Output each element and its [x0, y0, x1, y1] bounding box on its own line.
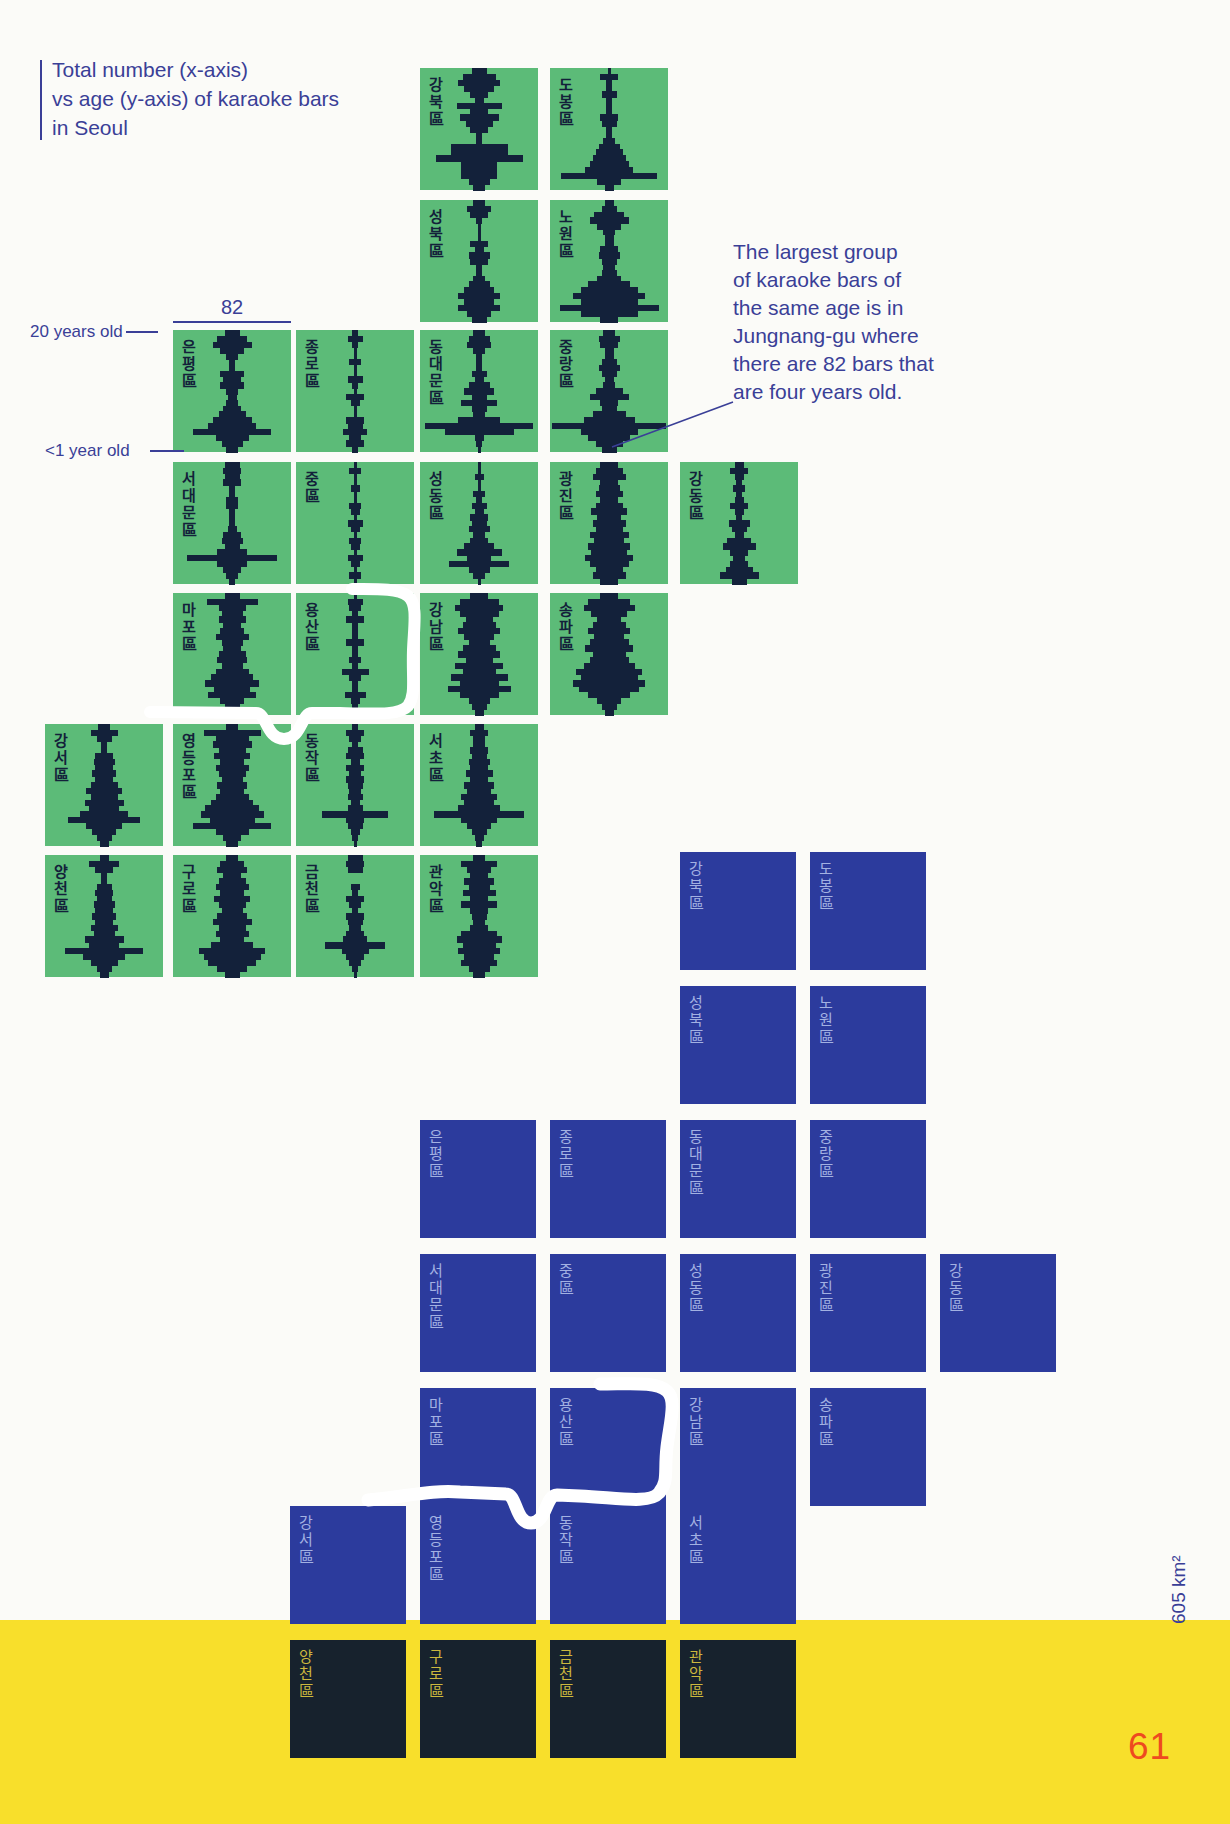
district-label-geumcheon: 금 천 區 — [305, 863, 320, 914]
map-tile-songpa: 송 파 區 — [810, 1388, 926, 1506]
district-label-geumcheon: 금 천 區 — [559, 1648, 574, 1699]
district-label-gwanak: 관 악 區 — [429, 863, 444, 914]
district-label-gangnam: 강 남 區 — [429, 601, 444, 652]
map-tile-eunpyeong: 은 평 區 — [420, 1120, 536, 1238]
map-tile-geumcheon: 금 천 區 — [550, 1640, 666, 1758]
district-label-songpa: 송 파 區 — [819, 1396, 834, 1447]
histogram-tile-yongsan: 용 산 區 — [296, 593, 414, 715]
callout-line: The largest group — [733, 238, 934, 266]
district-label-gwangjin: 광 진 區 — [819, 1262, 834, 1313]
map-tile-nowon: 노 원 區 — [810, 986, 926, 1104]
district-label-dongdaemun: 동 대 문 區 — [429, 338, 444, 406]
district-label-yongsan: 용 산 區 — [305, 601, 320, 652]
axis-label-20-years: 20 years old — [30, 322, 123, 342]
district-label-nowon: 노 원 區 — [559, 208, 574, 259]
district-label-dongjak: 동 작 區 — [305, 732, 320, 783]
district-label-jongno: 종 로 區 — [305, 338, 320, 389]
callout-line: there are 82 bars that — [733, 350, 934, 378]
map-tile-gwangjin: 광 진 區 — [810, 1254, 926, 1372]
histogram-tile-dobong: 도 봉 區 — [550, 68, 668, 190]
histogram-tile-jungnang: 중 랑 區 — [550, 330, 668, 452]
histogram-tile-geumcheon: 금 천 區 — [296, 855, 414, 977]
district-label-seongdong: 성 동 區 — [689, 1262, 704, 1313]
district-label-dongjak: 동 작 區 — [559, 1514, 574, 1565]
map-tile-mapo: 마 포 區 — [420, 1388, 536, 1506]
histogram-tile-seocho: 서 초 區 — [420, 724, 538, 846]
district-label-seodaemun: 서 대 문 區 — [429, 1262, 444, 1330]
map-tile-gangnam: 강 남 區 — [680, 1388, 796, 1506]
district-label-dongdaemun: 동 대 문 區 — [689, 1128, 704, 1196]
histogram-tile-seongdong: 성 동 區 — [420, 462, 538, 584]
title-line: vs age (y-axis) of karaoke bars — [52, 84, 339, 113]
histogram-tile-dongjak: 동 작 區 — [296, 724, 414, 846]
district-label-gangbuk: 강 북 區 — [689, 860, 704, 911]
district-label-gwanak: 관 악 區 — [689, 1648, 704, 1699]
total-area-label: 605 km² — [1168, 1524, 1190, 1624]
district-label-gwangjin: 광 진 區 — [559, 470, 574, 521]
district-label-songpa: 송 파 區 — [559, 601, 574, 652]
histogram-tile-gwanak: 관 악 區 — [420, 855, 538, 977]
district-label-yangcheon: 양 천 區 — [54, 863, 69, 914]
district-label-jungnang: 중 랑 區 — [819, 1128, 834, 1179]
district-label-seongdong: 성 동 區 — [429, 470, 444, 521]
district-label-yeongdeungpo: 영 등 포 區 — [182, 732, 197, 800]
district-label-nowon: 노 원 區 — [819, 994, 834, 1045]
district-label-yeongdeungpo: 영 등 포 區 — [429, 1514, 444, 1582]
callout-line: are four years old. — [733, 378, 934, 406]
histogram-tile-eunpyeong: 은 평 區 — [173, 330, 291, 452]
map-tile-yangcheon: 양 천 區 — [290, 1640, 406, 1758]
district-label-yangcheon: 양 천 區 — [299, 1648, 314, 1699]
histogram-tile-yangcheon: 양 천 區 — [45, 855, 163, 977]
map-tile-seodaemun: 서 대 문 區 — [420, 1254, 536, 1372]
map-tile-dobong: 도 봉 區 — [810, 852, 926, 970]
map-tile-jongno: 종 로 區 — [550, 1120, 666, 1238]
title-line: in Seoul — [52, 113, 339, 142]
page: Total number (x-axis) vs age (y-axis) of… — [0, 0, 1230, 1824]
district-label-eunpyeong: 은 평 區 — [429, 1128, 444, 1179]
callout-text: The largest group of karaoke bars of the… — [733, 238, 934, 406]
map-tile-yongsan: 용 산 區 — [550, 1388, 666, 1506]
histogram-tile-seongbuk: 성 북 區 — [420, 200, 538, 322]
map-tile-jungnang: 중 랑 區 — [810, 1120, 926, 1238]
district-label-gangseo: 강 서 區 — [54, 732, 69, 783]
histogram-tile-gangseo: 강 서 區 — [45, 724, 163, 846]
histogram-tile-gangbuk: 강 북 區 — [420, 68, 538, 190]
histogram-tile-dongdaemun: 동 대 문 區 — [420, 330, 538, 452]
histogram-tile-yeongdeungpo: 영 등 포 區 — [173, 724, 291, 846]
histogram-tile-nowon: 노 원 區 — [550, 200, 668, 322]
district-label-gangnam: 강 남 區 — [689, 1396, 704, 1447]
page-title: Total number (x-axis) vs age (y-axis) of… — [52, 55, 339, 142]
histogram-tile-mapo: 마 포 區 — [173, 593, 291, 715]
map-tile-gwanak: 관 악 區 — [680, 1640, 796, 1758]
histogram-tile-gwangjin: 광 진 區 — [550, 462, 668, 584]
map-tile-dongjak: 동 작 區 — [550, 1506, 666, 1624]
histogram-tile-gangdong: 강 동 區 — [680, 462, 798, 584]
axis-tick-bottom — [150, 450, 184, 452]
district-label-jung: 중 區 — [305, 470, 320, 504]
axis-label-under-1-year: <1 year old — [45, 441, 130, 461]
district-label-guro: 구 로 區 — [429, 1648, 444, 1699]
histogram-tile-guro: 구 로 區 — [173, 855, 291, 977]
map-tile-dongdaemun: 동 대 문 區 — [680, 1120, 796, 1238]
district-label-guro: 구 로 區 — [182, 863, 197, 914]
scale-line — [173, 321, 291, 323]
axis-tick-top — [126, 331, 158, 333]
district-label-mapo: 마 포 區 — [429, 1396, 444, 1447]
map-tile-jung: 중 區 — [550, 1254, 666, 1372]
district-label-seongbuk: 성 북 區 — [429, 208, 444, 259]
district-label-seongbuk: 성 북 區 — [689, 994, 704, 1045]
title-line: Total number (x-axis) — [52, 55, 339, 84]
district-label-dobong: 도 봉 區 — [559, 76, 574, 127]
district-label-jungnang: 중 랑 區 — [559, 338, 574, 389]
district-label-seocho: 서 초 區 — [429, 732, 444, 783]
district-label-gangdong: 강 동 區 — [689, 470, 704, 521]
district-label-seodaemun: 서 대 문 區 — [182, 470, 197, 538]
district-label-gangdong: 강 동 區 — [949, 1262, 964, 1313]
histogram-tile-jongno: 종 로 區 — [296, 330, 414, 452]
callout-line: of karaoke bars of — [733, 266, 934, 294]
callout-line: Jungnang-gu where — [733, 322, 934, 350]
histogram-tile-gangnam: 강 남 區 — [420, 593, 538, 715]
callout-line: the same age is in — [733, 294, 934, 322]
district-label-jongno: 종 로 區 — [559, 1128, 574, 1179]
map-tile-guro: 구 로 區 — [420, 1640, 536, 1758]
